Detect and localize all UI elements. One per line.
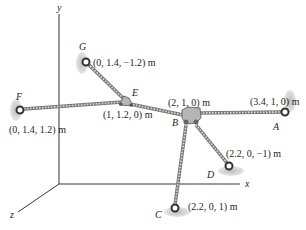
point-a-label: A	[272, 121, 280, 132]
ring-d	[226, 163, 233, 170]
point-f-label: F	[15, 91, 23, 102]
coords-b: (2, 1, 0) m	[168, 97, 210, 109]
ring-f	[17, 107, 24, 114]
coords-c: (2.2, 0, 1) m	[188, 201, 238, 213]
force-system-diagram: y x z	[0, 0, 306, 230]
y-axis-label: y	[56, 2, 62, 13]
coords-g: (0, 1.4, −1.2) m	[93, 57, 156, 69]
point-g-label: G	[79, 41, 86, 52]
ring-g	[83, 59, 90, 66]
cable-eg-core	[88, 64, 124, 99]
point-c-label: C	[155, 209, 162, 220]
x-axis-label: x	[244, 178, 250, 189]
z-axis-label: z	[9, 209, 14, 220]
z-axis	[18, 184, 59, 212]
coords-a: (3.4, 1, 0) m	[250, 96, 300, 108]
joint-b-plate	[182, 107, 201, 125]
coords-d: (2.2, 0, −1) m	[226, 148, 281, 160]
point-b-label: B	[172, 117, 178, 128]
coordinate-labels: (0, 1.4, −1.2) m (0, 1.4, 1.2) m (1, 1.2…	[9, 57, 300, 213]
point-e-label: E	[131, 87, 138, 98]
point-d-label: D	[206, 169, 215, 180]
ring-a	[282, 109, 289, 116]
ring-c	[172, 205, 179, 212]
coords-f: (0, 1.4, 1.2) m	[9, 124, 66, 136]
coords-e: (1, 1.2, 0) m	[103, 109, 153, 121]
